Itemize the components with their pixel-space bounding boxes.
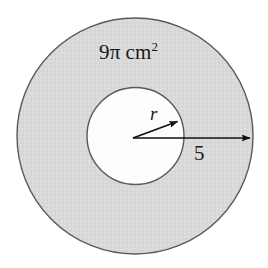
area-unit: cm [126,40,152,64]
outer-radius-label: 5 [194,143,205,164]
area-exponent: 2 [152,39,159,54]
pi-symbol: π [110,40,121,64]
inner-radius-label: r [150,104,157,123]
annulus-figure: 9πcm2 r 5 [0,0,268,268]
inner-circle-hole [87,88,184,185]
area-label: 9πcm2 [99,42,158,63]
area-coefficient: 9 [99,40,110,64]
